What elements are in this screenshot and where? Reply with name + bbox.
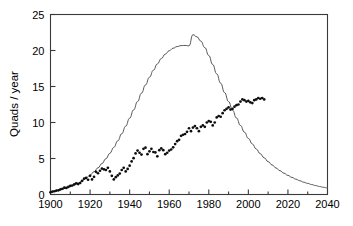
x-tick-label: 2000 [236, 198, 260, 210]
data-point [213, 121, 216, 124]
data-point [198, 130, 201, 133]
data-point [136, 149, 139, 152]
data-point [93, 176, 96, 179]
data-point [126, 168, 129, 171]
x-tick-label: 2020 [276, 198, 300, 210]
data-point [227, 106, 230, 109]
data-point [190, 130, 193, 133]
data-point [237, 103, 240, 106]
data-point [128, 164, 131, 167]
chart-figure: Quads / year 0510152025 1900192019401960… [0, 0, 353, 226]
x-tick-label: 1940 [117, 198, 141, 210]
data-point [79, 182, 82, 185]
x-tick-label: 1980 [197, 198, 221, 210]
data-point [132, 157, 135, 160]
data-point [144, 146, 147, 149]
data-point [110, 174, 113, 177]
data-point [209, 120, 212, 123]
data-point [221, 112, 224, 115]
data-point [184, 133, 187, 136]
data-point [239, 100, 242, 103]
y-tick-label: 5 [38, 153, 44, 165]
x-tick-label: 1920 [78, 198, 102, 210]
x-tick-label: 1960 [157, 198, 181, 210]
y-axis-title: Quads / year [8, 71, 20, 137]
y-tick-label: 10 [32, 117, 44, 129]
data-point [251, 102, 254, 105]
data-point [188, 127, 191, 130]
data-point [186, 131, 189, 134]
data-point [196, 127, 199, 130]
y-tick-label: 25 [32, 9, 44, 21]
data-point [194, 125, 197, 128]
data-point [170, 148, 173, 151]
data-point [231, 107, 234, 110]
data-point [154, 151, 157, 154]
data-point [263, 98, 266, 101]
data-point [134, 152, 137, 155]
data-point [172, 146, 175, 149]
data-point [174, 143, 177, 146]
data-point [97, 172, 100, 175]
data-point [203, 125, 206, 128]
data-point [211, 124, 214, 127]
data-point [178, 138, 181, 141]
data-point [130, 160, 133, 163]
data-point [140, 153, 143, 156]
data-point [124, 170, 127, 173]
data-point [89, 174, 92, 177]
data-point [156, 155, 159, 158]
data-point [146, 153, 149, 156]
data-point [118, 172, 121, 175]
data-point [99, 169, 102, 172]
data-point [105, 169, 108, 172]
data-point [162, 149, 165, 152]
x-tick-label: 2040 [315, 198, 339, 210]
data-point [148, 150, 151, 153]
x-tick-label: 1900 [38, 198, 62, 210]
production-scatter-chart: Quads / year 0510152025 1900192019401960… [0, 0, 353, 226]
data-point [120, 169, 123, 172]
y-tick-label: 20 [32, 45, 44, 57]
data-point [107, 167, 110, 170]
y-tick-label: 15 [32, 81, 44, 93]
data-point [112, 178, 115, 181]
data-point [166, 151, 169, 154]
data-point [109, 170, 112, 173]
data-point [81, 179, 84, 182]
data-point [122, 167, 125, 170]
data-point [150, 147, 153, 150]
data-point [87, 178, 90, 181]
data-point [219, 115, 222, 118]
data-point [91, 178, 94, 181]
